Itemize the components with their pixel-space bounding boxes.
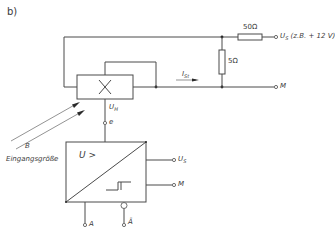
comp-ground-label: M [178, 181, 184, 188]
comp-us-terminal-icon [172, 158, 175, 161]
comparator-diagonal [66, 142, 146, 202]
field-arrow-line-1 [11, 103, 78, 141]
field-label: B [25, 143, 30, 150]
comparator-corner-dot-icon [65, 201, 67, 203]
output-a-bar-label: Ā [128, 219, 133, 226]
us-terminal-icon [274, 35, 277, 38]
supply-note: (z.B. + 12 V) [291, 32, 335, 40]
e-terminal-icon [103, 121, 106, 124]
comparator-corner-dot-icon-2 [145, 141, 147, 143]
field-arrow-icon-2 [77, 110, 85, 116]
figure-label: b) [7, 7, 17, 17]
resistor-5ohm-icon [219, 50, 225, 74]
current-subscript: St [184, 73, 189, 79]
hysteresis-icon [106, 182, 131, 190]
ground-top-label: M [280, 83, 286, 90]
output-a-terminal-icon [83, 223, 86, 226]
supply-subscript: S [285, 35, 288, 41]
comparator-label: U > [79, 151, 96, 160]
input-quantity-label: Eingangsgröße [6, 156, 58, 163]
output-a-bar-terminal-icon [122, 223, 125, 226]
resistor-5ohm-label: 5Ω [228, 58, 238, 65]
supply-label: US (z.B. + 12 V) [280, 33, 335, 41]
resistor-50ohm-icon [238, 34, 262, 40]
field-arrow-icon-1 [72, 102, 80, 108]
m-terminal-icon [274, 85, 277, 88]
node-e-label: e [109, 119, 113, 126]
output-a-label: A [89, 221, 94, 228]
comp-supply-label: US [178, 156, 186, 164]
current-label: ISt [182, 71, 189, 79]
comp-supply-subscript: S [183, 158, 186, 164]
hall-voltage-label: UH [109, 104, 118, 112]
current-arrow-icon [192, 79, 199, 82]
hall-voltage-subscript: H [114, 106, 118, 112]
comp-m-terminal-icon [172, 183, 175, 186]
inverter-bubble-icon [121, 203, 127, 209]
resistor-50ohm-label: 50Ω [243, 24, 257, 31]
